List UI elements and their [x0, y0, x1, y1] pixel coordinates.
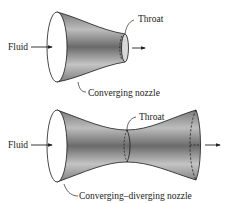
cd-nozzle-caption: Converging–diverging nozzle — [79, 191, 192, 201]
throat-label: Throat — [138, 14, 164, 24]
cd-nozzle-body — [57, 110, 201, 182]
converging-throat-ring — [122, 34, 129, 62]
converging-nozzle-caption: Converging nozzle — [88, 88, 160, 98]
cd-throat-label: Throat — [139, 112, 165, 122]
converging-nozzle: Fluid Throat Converging nozzle — [8, 12, 164, 98]
cd-throat-leader-line — [127, 117, 136, 130]
nozzle-diagram: Fluid Throat Converging nozzle Fluid Thr… — [0, 0, 228, 203]
fluid-label: Fluid — [8, 42, 28, 52]
cd-inlet-opening — [47, 110, 67, 182]
caption-leader-line — [78, 82, 86, 92]
throat-leader-line — [125, 20, 134, 34]
cd-caption-leader-line — [64, 184, 78, 196]
converging-diverging-nozzle: Fluid Throat Converging–diverging nozzle — [8, 110, 220, 201]
cd-fluid-label: Fluid — [8, 140, 28, 150]
